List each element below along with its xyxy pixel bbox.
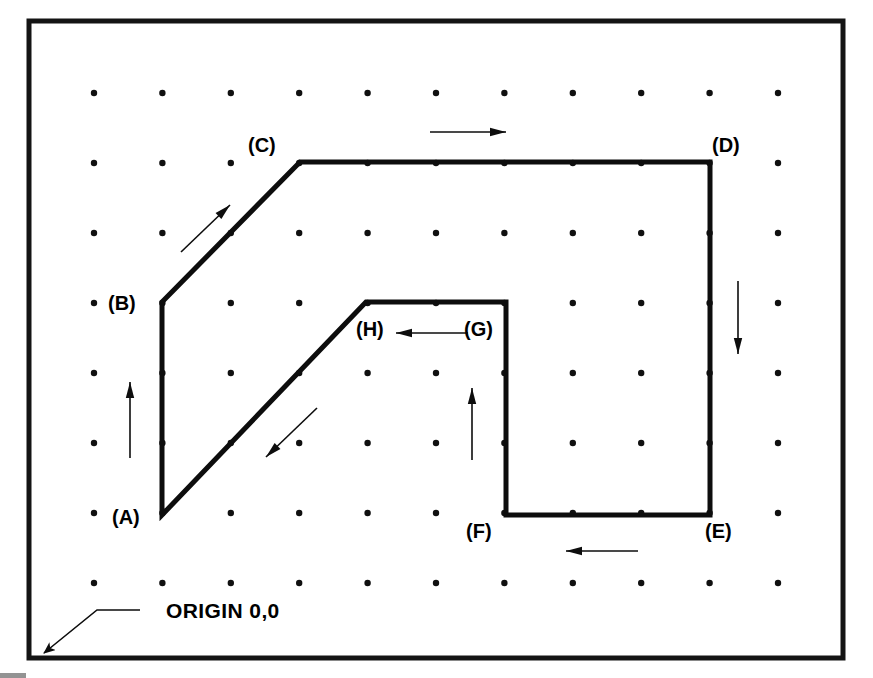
grid-dot	[570, 90, 576, 96]
grid-dot	[296, 300, 302, 306]
grid-dot	[433, 370, 439, 376]
grid-dot	[228, 300, 234, 306]
grid-dot	[638, 580, 644, 586]
grid-dot	[159, 90, 165, 96]
page-background	[0, 0, 873, 678]
grid-dot	[638, 440, 644, 446]
grid-dot	[775, 510, 781, 516]
vertex-label-f: (F)	[466, 520, 492, 542]
grid-dot	[296, 510, 302, 516]
grid-dot	[501, 580, 507, 586]
grid-dot	[228, 160, 234, 166]
grid-dot	[364, 90, 370, 96]
grid-dot	[638, 370, 644, 376]
grid-dot	[433, 580, 439, 586]
grid-dot	[775, 580, 781, 586]
grid-dot	[501, 90, 507, 96]
grid-dot	[706, 90, 712, 96]
grid-dot	[775, 90, 781, 96]
grid-dot	[364, 580, 370, 586]
grid-dot	[638, 300, 644, 306]
vertex-label-c: (C)	[248, 134, 276, 156]
scan-artifact	[0, 673, 26, 678]
cad-polygon-diagram: (A)(B)(C)(D)(E)(F)(G)(H) ORIGIN 0,0	[0, 0, 873, 678]
grid-dot	[570, 300, 576, 306]
grid-dot	[638, 230, 644, 236]
grid-dot	[501, 230, 507, 236]
grid-dot	[91, 510, 97, 516]
grid-dot	[706, 580, 712, 586]
grid-dot	[364, 230, 370, 236]
grid-dot	[91, 300, 97, 306]
grid-dot	[364, 510, 370, 516]
grid-dot	[570, 580, 576, 586]
grid-dot	[91, 160, 97, 166]
grid-dot	[364, 370, 370, 376]
grid-dot	[228, 580, 234, 586]
grid-dot	[91, 90, 97, 96]
diagram-canvas: (A)(B)(C)(D)(E)(F)(G)(H) ORIGIN 0,0	[0, 0, 873, 678]
grid-dot	[570, 230, 576, 236]
vertex-label-d: (D)	[712, 134, 740, 156]
grid-dot	[433, 440, 439, 446]
grid-dot	[364, 440, 370, 446]
grid-dot	[91, 440, 97, 446]
grid-dot	[775, 230, 781, 236]
origin-label-text: ORIGIN 0,0	[166, 599, 280, 622]
grid-dot	[433, 230, 439, 236]
grid-dot	[159, 230, 165, 236]
grid-dot	[570, 370, 576, 376]
grid-dot	[433, 510, 439, 516]
grid-dot	[91, 580, 97, 586]
grid-dot	[296, 580, 302, 586]
vertex-label-h: (H)	[356, 318, 384, 340]
grid-dot	[638, 90, 644, 96]
grid-dot	[775, 440, 781, 446]
grid-dot	[159, 160, 165, 166]
grid-dot	[433, 90, 439, 96]
grid-dot	[91, 230, 97, 236]
vertex-label-g: (G)	[464, 318, 493, 340]
grid-dot	[296, 90, 302, 96]
grid-dot	[159, 580, 165, 586]
grid-dot	[775, 370, 781, 376]
grid-dot	[228, 510, 234, 516]
grid-dot	[775, 160, 781, 166]
vertex-label-a: (A)	[112, 506, 140, 528]
grid-dot	[228, 370, 234, 376]
vertex-label-e: (E)	[705, 520, 732, 542]
grid-dot	[296, 440, 302, 446]
grid-dot	[296, 230, 302, 236]
vertex-label-b: (B)	[108, 292, 136, 314]
grid-dot	[570, 440, 576, 446]
grid-dot	[775, 300, 781, 306]
grid-dot	[228, 90, 234, 96]
grid-dot	[91, 370, 97, 376]
